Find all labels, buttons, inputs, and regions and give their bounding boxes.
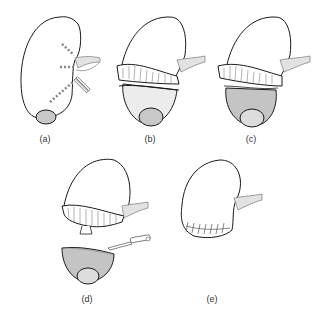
- panel-a: (a): [0, 0, 110, 150]
- tumor-c: [240, 109, 264, 127]
- kidney-illustration-a: [0, 0, 110, 150]
- panel-b: (b): [105, 0, 215, 150]
- panel-c: (c): [210, 0, 321, 150]
- label-d: (d): [72, 294, 102, 304]
- label-a: (a): [30, 134, 60, 144]
- kidney-illustration-c: [210, 0, 321, 150]
- label-e: (e): [197, 294, 227, 304]
- tumor-d: [77, 268, 99, 284]
- panel-e: (e): [170, 150, 280, 320]
- tumor-b: [139, 108, 163, 126]
- panel-d: (d): [60, 150, 180, 320]
- clamp-icon: [74, 77, 90, 93]
- label-b: (b): [135, 134, 165, 144]
- tumor-a: [36, 110, 56, 124]
- label-c: (c): [236, 134, 266, 144]
- scalpel-icon: [108, 235, 151, 250]
- kidney-illustration-b: [105, 0, 215, 150]
